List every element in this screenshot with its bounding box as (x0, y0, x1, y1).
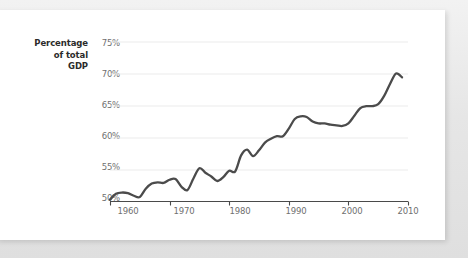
chart-card: Percentage of total GDP 75% 70% 65% 60% … (0, 10, 445, 240)
data-line-series-0 (110, 73, 402, 199)
x-axis-tick-marks (111, 202, 409, 206)
plot-svg (0, 10, 445, 240)
line-chart: Percentage of total GDP 75% 70% 65% 60% … (0, 10, 445, 240)
